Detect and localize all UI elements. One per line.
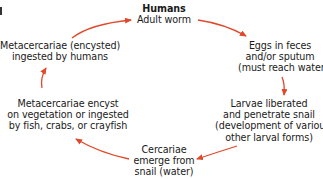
node-metacercariae-ingested: Metacercariae (encysted) ingested by hum…: [0, 40, 120, 62]
node-ingested-line-1: Metacercariae (encysted): [0, 40, 120, 51]
node-cercariae-line-3: snail (water): [128, 166, 200, 177]
node-metacercariae-encyst: Metacercariae encyst on vegetation or in…: [4, 98, 132, 132]
node-larvae: Larvae liberated and penetrate snail (de…: [215, 98, 323, 143]
node-encyst-line-1: Metacercariae encyst: [4, 98, 132, 109]
node-eggs-line-3: (must reach water): [238, 62, 322, 73]
arrow-encyst-to-ingested: [42, 68, 47, 88]
arrow-cercariae-to-encyst: [76, 139, 129, 159]
arrow-ingested-to-humans: [72, 20, 131, 38]
node-encyst-line-2: on vegetation or ingested: [4, 109, 132, 120]
node-cercariae-line-2: emerge from: [128, 155, 200, 166]
node-eggs-line-2: and/or sputum: [238, 51, 322, 62]
node-encyst-line-3: by fish, crabs, or crayfish: [4, 120, 132, 131]
node-larvae-line-1: Larvae liberated: [215, 98, 323, 109]
node-larvae-line-4: other larval forms): [215, 132, 323, 143]
node-eggs: Eggs in feces and/or sputum (must reach …: [238, 40, 322, 74]
node-cercariae: Cercariae emerge from snail (water): [128, 144, 200, 178]
node-humans: Humans Adult worm: [128, 3, 200, 25]
node-larvae-line-3: (development of various: [215, 120, 323, 131]
node-humans-title: Humans: [128, 3, 200, 14]
node-larvae-line-2: and penetrate snail: [215, 109, 323, 120]
arrow-humans-to-eggs: [198, 20, 246, 36]
node-ingested-line-2: ingested by humans: [0, 51, 120, 62]
node-eggs-line-1: Eggs in feces: [238, 40, 322, 51]
arrow-eggs-to-larvae: [282, 77, 284, 95]
node-cercariae-line-1: Cercariae: [128, 144, 200, 155]
arrow-larvae-to-cercariae: [197, 146, 237, 159]
node-humans-subtitle: Adult worm: [128, 14, 200, 25]
